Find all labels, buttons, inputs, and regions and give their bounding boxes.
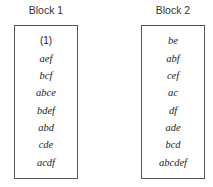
block-1-item: bcf [15, 70, 77, 81]
block-2-item: abf [142, 53, 204, 64]
block-2-box: be abf cef ac df ade bcd abcdef [141, 25, 205, 179]
block-1-item: bdef [15, 105, 77, 116]
block-1-item: abd [15, 122, 77, 133]
block-1-item: acdf [15, 157, 77, 168]
block-1-item: aef [15, 53, 77, 64]
block-2-item: bcd [142, 139, 204, 150]
block-2-item: ade [142, 122, 204, 133]
block-1-box: (1) aef bcf abce bdef abd cde acdf [14, 25, 78, 179]
block-2-item: cef [142, 70, 204, 81]
block-1-title: Block 1 [11, 4, 81, 16]
block-1-item: abce [15, 87, 77, 98]
block-1-item: (1) [15, 35, 77, 46]
block-2-title: Block 2 [138, 4, 208, 16]
block-2-item: be [142, 35, 204, 46]
block-1-item: cde [15, 139, 77, 150]
block-2-item: df [142, 105, 204, 116]
block-2-item: ac [142, 87, 204, 98]
block-2-item: abcdef [142, 157, 204, 168]
